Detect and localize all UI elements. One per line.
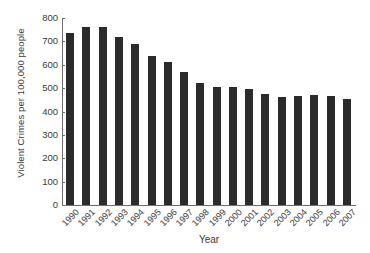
bar-1992[interactable]: [99, 27, 107, 205]
bar-2003[interactable]: [278, 97, 286, 205]
bar-slot: [306, 18, 322, 205]
y-tick-label: 400: [28, 107, 62, 117]
bar-1999[interactable]: [213, 87, 221, 206]
y-tick-0: 0: [28, 200, 62, 210]
bar-slot: [143, 18, 159, 205]
bar-2002[interactable]: [261, 94, 269, 205]
bar-slot: [111, 18, 127, 205]
bar-slot: [209, 18, 225, 205]
bar-1993[interactable]: [115, 37, 123, 205]
y-tick-600: 600: [28, 60, 62, 70]
bar-slot: [95, 18, 111, 205]
y-tick-label: 100: [28, 177, 62, 187]
y-tick-100: 100: [28, 177, 62, 187]
bar-2007[interactable]: [343, 99, 351, 205]
y-tick-label: 600: [28, 60, 62, 70]
bar-1995[interactable]: [148, 56, 156, 205]
y-tick-700: 700: [28, 36, 62, 46]
y-tick-label: 200: [28, 153, 62, 163]
bar-slot: [62, 18, 78, 205]
y-tick-label: 700: [28, 36, 62, 46]
y-axis-title: Violent Crimes per 100,000 people: [14, 3, 28, 203]
bar-2001[interactable]: [245, 89, 253, 205]
bar-1997[interactable]: [180, 72, 188, 205]
bar-slot: [160, 18, 176, 205]
bar-2005[interactable]: [310, 95, 318, 205]
y-tick-label: 800: [28, 13, 62, 23]
bar-slot: [290, 18, 306, 205]
bar-slot: [192, 18, 208, 205]
x-axis-title: Year: [62, 234, 356, 245]
bar-2004[interactable]: [294, 96, 302, 205]
x-axis-ticks: 1990199119921993199419951996199719981999…: [62, 207, 356, 237]
bar-slot: [127, 18, 143, 205]
y-tick-500: 500: [28, 83, 62, 93]
bar-2006[interactable]: [327, 96, 335, 205]
bar-slot: [257, 18, 273, 205]
bar-slot: [339, 18, 355, 205]
y-tick-800: 800: [28, 13, 62, 23]
bar-1990[interactable]: [66, 33, 74, 205]
bar-1991[interactable]: [82, 27, 90, 205]
bar-slot: [78, 18, 94, 205]
bar-slot: [274, 18, 290, 205]
bars-layer: [62, 18, 355, 205]
violent-crime-bar-chart: Violent Crimes per 100,000 people 010020…: [0, 0, 370, 253]
y-tick-400: 400: [28, 107, 62, 117]
bar-slot: [241, 18, 257, 205]
y-tick-300: 300: [28, 130, 62, 140]
plot-area: 0100200300400500600700800: [62, 18, 355, 205]
y-tick-label: 500: [28, 83, 62, 93]
y-tick-label: 300: [28, 130, 62, 140]
bar-slot: [225, 18, 241, 205]
y-tick-label: 0: [28, 200, 62, 210]
bar-1994[interactable]: [131, 44, 139, 205]
bar-1998[interactable]: [196, 83, 204, 205]
bar-2000[interactable]: [229, 87, 237, 205]
x-axis-line: [62, 205, 356, 206]
bar-1996[interactable]: [164, 62, 172, 205]
y-tick-200: 200: [28, 153, 62, 163]
bar-slot: [322, 18, 338, 205]
bar-slot: [176, 18, 192, 205]
y-tick-mark: [62, 205, 65, 206]
